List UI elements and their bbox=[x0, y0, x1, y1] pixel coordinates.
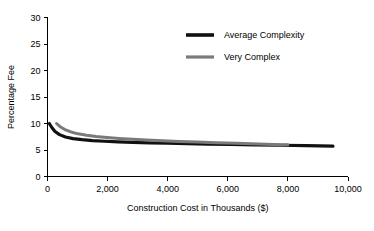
x-tick-label: 10,000 bbox=[334, 184, 362, 194]
y-tick-label: 10 bbox=[30, 119, 40, 129]
y-tick-group: 051015202530 bbox=[30, 13, 47, 182]
x-tick-label: 4,000 bbox=[156, 184, 179, 194]
x-tick-label: 6,000 bbox=[217, 184, 240, 194]
x-tick-group: 02,0004,0006,0008,00010,000 bbox=[45, 177, 362, 194]
y-tick-label: 5 bbox=[35, 145, 40, 155]
x-axis-title: Construction Cost in Thousands ($) bbox=[127, 203, 268, 213]
y-tick-label: 15 bbox=[30, 92, 40, 102]
x-axis: 02,0004,0006,0008,00010,000 bbox=[45, 177, 362, 194]
y-tick-label: 20 bbox=[30, 66, 40, 76]
x-tick-label: 2,000 bbox=[96, 184, 119, 194]
x-tick-label: 0 bbox=[45, 184, 50, 194]
y-axis-title: Percentage Fee bbox=[6, 65, 16, 129]
y-tick-label: 0 bbox=[35, 172, 40, 182]
line-chart: 051015202530 02,0004,0006,0008,00010,000… bbox=[0, 0, 374, 231]
y-axis: 051015202530 bbox=[30, 13, 47, 182]
series-group bbox=[49, 124, 333, 147]
chart-container: 051015202530 02,0004,0006,0008,00010,000… bbox=[0, 0, 374, 231]
y-tick-label: 25 bbox=[30, 39, 40, 49]
chart-legend: Average ComplexityVery Complex bbox=[186, 30, 305, 62]
y-tick-label: 30 bbox=[30, 13, 40, 23]
x-tick-label: 8,000 bbox=[277, 184, 300, 194]
legend-label: Average Complexity bbox=[224, 30, 305, 40]
legend-label: Very Complex bbox=[224, 52, 281, 62]
